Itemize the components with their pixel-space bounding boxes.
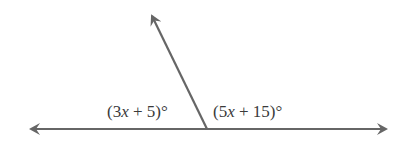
angle-label-left: (3x + 5)° [107, 103, 168, 120]
angle-label-left-variable: x [121, 102, 129, 121]
angle-label-right-variable: x [227, 102, 235, 121]
angle-label-right-suffix: + 15)° [235, 102, 283, 121]
angle-label-left-suffix: + 5)° [129, 102, 168, 121]
diagram-canvas: (3x + 5)° (5x + 15)° [0, 0, 407, 147]
angle-label-right: (5x + 15)° [213, 103, 282, 120]
angle-label-right-prefix: (5 [213, 102, 227, 121]
diagram-svg [0, 0, 407, 147]
angle-label-left-prefix: (3 [107, 102, 121, 121]
